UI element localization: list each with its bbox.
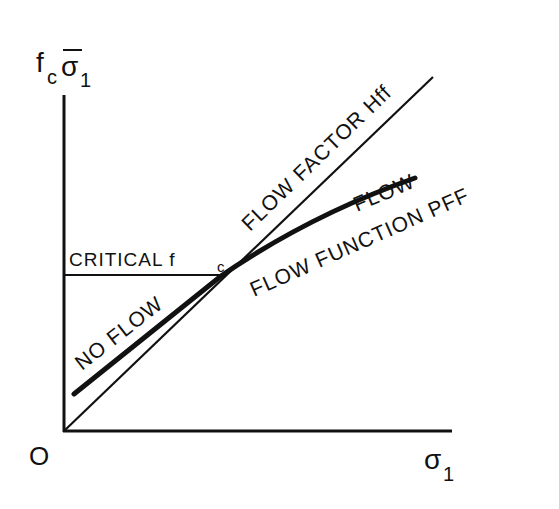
y-axis-label-sigma: σ <box>61 51 79 82</box>
origin-label: O <box>29 441 50 471</box>
y-axis-label-c: c <box>47 66 58 88</box>
critical-fc-label: CRITICAL f <box>69 249 175 270</box>
y-axis-label-f: f <box>36 47 45 78</box>
critical-fc-sub: c <box>217 258 226 275</box>
y-axis-label-sigma-sub: 1 <box>80 69 92 91</box>
flow-factor-label: FLOW FACTOR Hff <box>237 80 396 234</box>
flow-factor-diagram: f c σ 1 O σ 1 CRITICAL f c FLOW FACTOR H… <box>0 0 559 509</box>
x-axis-label-sub: 1 <box>443 463 455 485</box>
x-axis-label-sigma: σ <box>424 444 442 475</box>
